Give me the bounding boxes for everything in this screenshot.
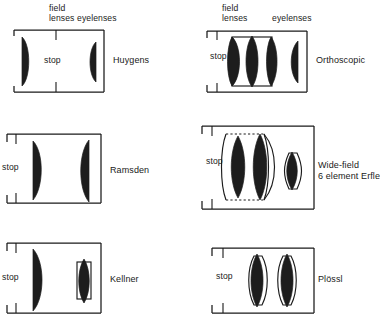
ramsden-optical-diagram xyxy=(0,110,190,225)
ramsden-design-name: Ramsden xyxy=(110,165,149,176)
huygens-field-lens xyxy=(22,37,29,86)
panel-huygens: stop Huygens xyxy=(0,0,190,110)
erfle-element-2 xyxy=(253,134,267,200)
erfle-eyelens xyxy=(287,152,298,190)
kellner-design-name: Kellner xyxy=(110,274,139,285)
orthoscopic-design-name: Orthoscopic xyxy=(316,55,365,66)
kellner-optical-diagram xyxy=(0,225,190,331)
erfle-element-1 xyxy=(231,136,245,198)
orthoscopic-triplet-element-1b xyxy=(228,37,240,86)
plossl-design-name: Plössl xyxy=(318,274,343,285)
kellner-eyelens-doublet xyxy=(79,259,90,303)
panel-erfle: stop Wide-field 6 element Erfle xyxy=(190,110,379,225)
erfle-stop-label: stop xyxy=(206,157,223,167)
huygens-stop-label: stop xyxy=(44,56,61,66)
panel-orthoscopic: stop Orthoscopic xyxy=(190,0,379,110)
plossl-stop-label: stop xyxy=(216,272,233,282)
huygens-design-name: Huygens xyxy=(113,55,149,66)
erfle-group1-front-surface xyxy=(222,134,227,200)
kellner-field-lens xyxy=(33,249,42,311)
ramsden-eyelens xyxy=(81,140,89,202)
orthoscopic-triplet-element-2 xyxy=(246,36,258,87)
panel-plossl: stop Plössl xyxy=(190,225,379,331)
huygens-optical-diagram xyxy=(0,0,190,110)
plossl-doublet-1 xyxy=(251,254,263,307)
orthoscopic-triplet-element-3 xyxy=(267,37,278,86)
ramsden-field-lens xyxy=(33,141,41,200)
ramsden-stop-label: stop xyxy=(2,163,19,173)
kellner-stop-label: stop xyxy=(2,273,19,283)
orthoscopic-eyelens xyxy=(291,41,298,83)
orthoscopic-stop-label: stop xyxy=(210,52,227,62)
panel-ramsden: stop Ramsden xyxy=(0,110,190,225)
plossl-doublet-2 xyxy=(281,254,293,307)
panel-kellner: stop Kellner xyxy=(0,225,190,331)
huygens-eyelens xyxy=(90,42,96,82)
erfle-design-name: Wide-field 6 element Erfle xyxy=(318,160,380,181)
